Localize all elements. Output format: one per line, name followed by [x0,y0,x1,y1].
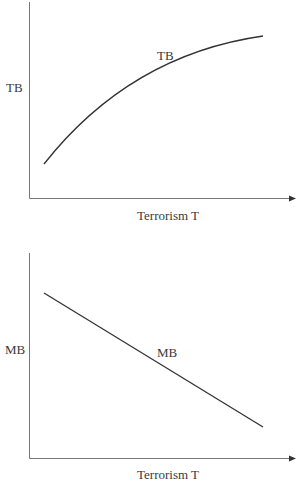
chart-canvas [0,0,302,492]
top-x-axis-label: Terrorism T [137,208,199,224]
bottom-x-axis-arrow-icon [289,456,296,462]
bottom-y-axis-label: MB [5,342,25,358]
top-x-axis-arrow-icon [289,196,296,202]
mb-line [44,293,263,427]
top-y-axis-label: TB [6,80,23,96]
tb-curve-label: TB [157,48,174,64]
mb-line-label: MB [157,345,177,361]
bottom-x-axis-label: Terrorism T [137,467,199,483]
tb-curve [44,36,263,164]
